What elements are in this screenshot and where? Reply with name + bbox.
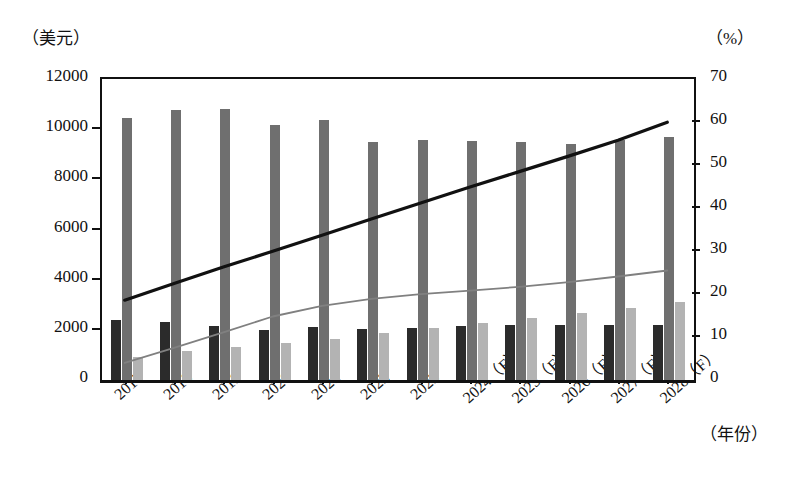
left-axis-tick-label: 4000 bbox=[10, 267, 88, 287]
plot-area bbox=[100, 77, 696, 383]
bar-dark-bar-series-2027（F） bbox=[604, 325, 614, 380]
bar-dark-bar-series-2022 bbox=[357, 329, 367, 380]
bar-tall-bar-series-2025（F） bbox=[516, 142, 526, 380]
plot-inner bbox=[102, 79, 694, 380]
right-axis-tick-label: 60 bbox=[710, 109, 727, 129]
x-axis-unit-label: （年份） bbox=[700, 420, 768, 445]
bar-tall-bar-series-2020 bbox=[270, 125, 280, 380]
left-axis-tick-mark bbox=[92, 177, 100, 179]
left-axis-tick-mark bbox=[92, 278, 100, 280]
bar-light-bar-series-2018 bbox=[182, 351, 192, 380]
bar-tall-bar-series-2023 bbox=[418, 140, 428, 380]
right-axis-tick-label: 30 bbox=[710, 238, 727, 258]
bar-dark-bar-series-2026（F） bbox=[555, 325, 565, 380]
bar-light-bar-series-2025（F） bbox=[527, 318, 537, 380]
right-axis-tick-label: 40 bbox=[710, 195, 727, 215]
left-axis-tick-label: 8000 bbox=[10, 166, 88, 186]
bar-light-bar-series-2023 bbox=[429, 328, 439, 380]
right-axis-tick-label: 50 bbox=[710, 152, 727, 172]
left-axis-tick-label: 0 bbox=[10, 367, 88, 387]
bar-light-bar-series-2026（F） bbox=[577, 313, 587, 380]
bar-dark-bar-series-2025（F） bbox=[505, 325, 515, 380]
right-axis-tick-label: 10 bbox=[710, 324, 727, 344]
bar-tall-bar-series-2027（F） bbox=[615, 140, 625, 380]
right-axis-unit-label: （%） bbox=[706, 24, 754, 49]
bar-light-bar-series-2021 bbox=[330, 339, 340, 380]
bar-light-bar-series-2017 bbox=[133, 357, 143, 380]
left-axis-tick-mark bbox=[92, 127, 100, 129]
bar-dark-bar-series-2017 bbox=[111, 320, 121, 380]
bar-light-bar-series-2024（F） bbox=[478, 323, 488, 380]
bar-light-bar-series-2027（F） bbox=[626, 308, 636, 380]
bar-light-bar-series-2022 bbox=[379, 333, 389, 380]
bar-dark-bar-series-2024（F） bbox=[456, 326, 466, 380]
bar-tall-bar-series-2024（F） bbox=[467, 141, 477, 380]
bar-dark-bar-series-2019 bbox=[209, 326, 219, 380]
bar-light-bar-series-2028（F） bbox=[675, 302, 685, 380]
bar-light-bar-series-2020 bbox=[281, 343, 291, 380]
bar-dark-bar-series-2023 bbox=[407, 328, 417, 380]
left-axis-tick-mark bbox=[92, 228, 100, 230]
bar-tall-bar-series-2022 bbox=[368, 142, 378, 380]
right-axis-tick-label: 0 bbox=[710, 367, 719, 387]
bar-tall-bar-series-2018 bbox=[171, 110, 181, 380]
left-axis-tick-label: 2000 bbox=[10, 317, 88, 337]
left-axis-tick-label: 12000 bbox=[10, 66, 88, 86]
bar-dark-bar-series-2020 bbox=[259, 330, 269, 380]
right-axis-tick-label: 70 bbox=[710, 66, 727, 86]
bar-tall-bar-series-2026（F） bbox=[566, 144, 576, 380]
chart-container: （美元） （%） （年份） 02000400060008000100001200… bbox=[0, 0, 804, 496]
bar-dark-bar-series-2021 bbox=[308, 327, 318, 380]
bar-light-bar-series-2019 bbox=[231, 347, 241, 380]
left-axis-tick-label: 6000 bbox=[10, 217, 88, 237]
bar-dark-bar-series-2018 bbox=[160, 322, 170, 380]
right-axis-tick-label: 20 bbox=[710, 281, 727, 301]
left-axis-tick-label: 10000 bbox=[10, 116, 88, 136]
bar-tall-bar-series-2019 bbox=[220, 109, 230, 380]
bar-dark-bar-series-2028（F） bbox=[653, 325, 663, 380]
left-axis-unit-label: （美元） bbox=[22, 24, 90, 49]
bar-tall-bar-series-2017 bbox=[122, 118, 132, 380]
bar-tall-bar-series-2028（F） bbox=[664, 137, 674, 380]
bar-tall-bar-series-2021 bbox=[319, 120, 329, 380]
left-axis-tick-mark bbox=[92, 328, 100, 330]
